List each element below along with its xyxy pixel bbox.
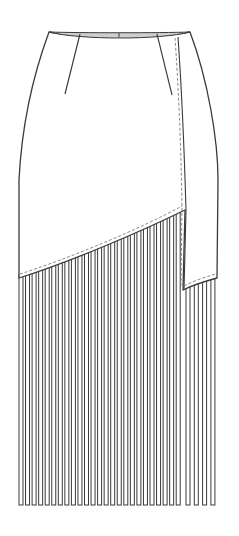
- fringe-strip: [111, 238, 115, 505]
- fringe-strip: [58, 259, 62, 505]
- fringe-strip: [143, 224, 147, 505]
- fringe-strip: [65, 256, 69, 505]
- fringe-strip: [163, 216, 167, 505]
- skirt-drawing: [0, 0, 239, 536]
- fringe-strip: [19, 275, 23, 505]
- fringe-strip: [52, 262, 56, 505]
- fringe-strip: [71, 254, 75, 505]
- fringe-strip: [32, 270, 36, 505]
- fringe-strip: [186, 287, 190, 505]
- skirt-flat-sketch: [0, 0, 239, 536]
- fringe-strip: [104, 240, 108, 505]
- fringe-strip: [176, 211, 180, 505]
- fringe-strip: [170, 213, 174, 505]
- fringe-strip: [26, 272, 30, 505]
- fringe-strip: [85, 248, 89, 505]
- fringe-strip: [203, 281, 207, 505]
- fringe-strip: [78, 251, 82, 505]
- fringe-strip: [150, 222, 154, 505]
- fringe-strip: [91, 246, 95, 505]
- fringe-strip: [130, 230, 134, 505]
- fringe-strip: [39, 267, 43, 505]
- fringe-strip: [137, 227, 141, 505]
- fringe-strip: [157, 219, 161, 505]
- fringe-strip: [98, 243, 102, 505]
- fringe-strip: [117, 235, 121, 505]
- fringe-strip: [45, 264, 49, 505]
- fringe-strip: [211, 278, 215, 505]
- fringe-strip: [194, 284, 198, 505]
- fringe-strips-panel: [186, 278, 215, 505]
- fringe-strip: [124, 232, 128, 505]
